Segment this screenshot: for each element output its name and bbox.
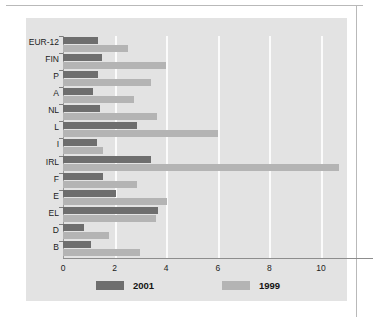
category-label-I: I: [11, 139, 59, 149]
bar-group: [63, 105, 347, 122]
bar-group: [63, 71, 347, 88]
bar-group: [63, 190, 347, 207]
bar-group: [63, 122, 347, 139]
category-label-L: L: [11, 122, 59, 132]
legend-swatch-2001: [96, 281, 124, 290]
bar-1999-I: [63, 147, 103, 154]
legend-label: 2001: [133, 280, 154, 291]
category-label-B: B: [11, 242, 59, 252]
bar-group: [63, 139, 347, 156]
legend-item-1999[interactable]: 1999: [222, 280, 280, 291]
bar-2001-EUR-12: [63, 37, 98, 44]
plot-area: [63, 36, 347, 258]
bar-2001-P: [63, 71, 98, 78]
category-label-EUR-12: EUR-12: [11, 37, 59, 47]
x-axis-tick-label: 8: [267, 263, 272, 273]
legend-swatch-1999: [222, 281, 250, 290]
legend-item-2001[interactable]: 2001: [96, 280, 154, 291]
bar-group: [63, 224, 347, 241]
bar-group: [63, 88, 347, 105]
x-axis-tick-label: 10: [316, 263, 325, 273]
x-axis-tick-label: 0: [61, 263, 66, 273]
chart-panel: EUR-12FINPANLLIIRLFEELDB 20011999 024681…: [26, 18, 347, 301]
x-axis-tick-label: 4: [164, 263, 169, 273]
bar-1999-E: [63, 198, 167, 205]
bar-group: [63, 241, 347, 258]
category-axis: EUR-12FINPANLLIIRLFEELDB: [26, 36, 63, 258]
x-axis-tick-label: 6: [215, 263, 220, 273]
bar-2001-I: [63, 139, 97, 146]
bar-2001-E: [63, 190, 116, 197]
bar-2001-L: [63, 122, 137, 129]
bar-1999-A: [63, 96, 134, 103]
x-axis-tick-label: 2: [112, 263, 117, 273]
page-rule-top: [6, 5, 363, 6]
bar-2001-F: [63, 173, 103, 180]
bar-group: [63, 156, 347, 173]
legend-label: 1999: [259, 280, 280, 291]
category-label-FIN: FIN: [11, 54, 59, 64]
bar-group: [63, 173, 347, 190]
chart-legend: 20011999: [26, 280, 347, 300]
bar-1999-B: [63, 249, 140, 256]
bar-2001-FIN: [63, 54, 102, 61]
bar-group: [63, 54, 347, 71]
category-label-IRL: IRL: [11, 157, 59, 167]
page-rule-right: [356, 5, 357, 317]
bar-2001-A: [63, 88, 93, 95]
category-label-A: A: [11, 88, 59, 98]
bar-2001-IRL: [63, 156, 151, 163]
bar-group: [63, 37, 347, 54]
bar-1999-FIN: [63, 62, 166, 69]
bar-1999-NL: [63, 113, 157, 120]
bar-1999-EL: [63, 215, 156, 222]
category-label-F: F: [11, 174, 59, 184]
category-label-NL: NL: [11, 105, 59, 115]
bar-1999-L: [63, 130, 218, 137]
bar-1999-IRL: [63, 164, 339, 171]
bar-2001-B: [63, 241, 91, 248]
bar-1999-EUR-12: [63, 45, 128, 52]
bar-group: [63, 207, 347, 224]
category-label-E: E: [11, 191, 59, 201]
category-label-P: P: [11, 71, 59, 81]
bar-2001-NL: [63, 105, 100, 112]
category-label-EL: EL: [11, 208, 59, 218]
bar-2001-D: [63, 224, 84, 231]
category-label-D: D: [11, 225, 59, 235]
bar-1999-D: [63, 232, 109, 239]
bar-1999-F: [63, 181, 137, 188]
bar-2001-EL: [63, 207, 158, 214]
bar-1999-P: [63, 79, 151, 86]
